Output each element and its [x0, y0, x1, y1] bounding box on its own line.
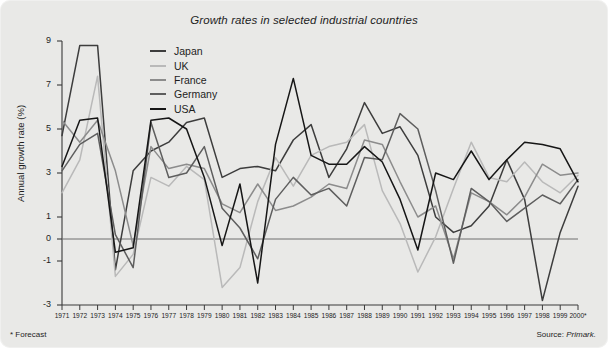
x-tick-label: 1999 [553, 312, 568, 319]
x-tick-label: 1971 [55, 312, 70, 319]
legend-item-uk[interactable]: UK [150, 58, 217, 72]
x-tick-label: 1994 [464, 312, 479, 319]
x-tick-label: 1979 [197, 312, 212, 319]
y-tick-label: 3 [25, 167, 51, 177]
x-tick-label: 1987 [339, 312, 354, 319]
legend-swatch-icon [150, 108, 166, 110]
legend-label: USA [174, 103, 196, 115]
source-prefix: Source: [536, 330, 566, 339]
legend-label: Japan [174, 45, 203, 57]
legend-item-usa[interactable]: USA [150, 102, 217, 116]
x-tick-label: 1988 [357, 312, 372, 319]
legend-label: Germany [174, 88, 217, 100]
x-tick-label: 1980 [215, 312, 230, 319]
x-tick-label: 1981 [233, 312, 248, 319]
x-tick-label: 1984 [286, 312, 301, 319]
x-tick-label: 1972 [72, 312, 87, 319]
x-tick-label: 1986 [322, 312, 337, 319]
legend-swatch-icon [150, 50, 166, 52]
forecast-footnote: * Forecast [10, 330, 46, 339]
legend-swatch-icon [150, 79, 166, 81]
x-tick-label: 2000* [569, 312, 586, 319]
y-tick-label: 9 [25, 35, 51, 45]
y-tick-label: -3 [25, 299, 51, 309]
x-tick-label: 1974 [108, 312, 123, 319]
x-tick-label: 1975 [126, 312, 141, 319]
x-tick-label: 1973 [90, 312, 105, 319]
legend-item-france[interactable]: France [150, 73, 217, 87]
y-tick-label: 0 [25, 233, 51, 243]
x-tick-label: 1989 [375, 312, 390, 319]
legend-item-japan[interactable]: Japan [150, 44, 217, 58]
y-tick-label: 5 [25, 123, 51, 133]
x-tick-label: 1993 [446, 312, 461, 319]
x-tick-label: 1983 [268, 312, 283, 319]
x-tick-label: 1982 [250, 312, 265, 319]
series-line-uk [62, 76, 578, 287]
x-tick-label: 1995 [482, 312, 497, 319]
y-tick-label: 7 [25, 79, 51, 89]
y-tick-label: -1 [25, 255, 51, 265]
x-tick-label: 1990 [393, 312, 408, 319]
legend-label: UK [174, 60, 189, 72]
source-note: Source: Primark. [536, 330, 596, 339]
x-tick-label: 1992 [428, 312, 443, 319]
x-tick-label: 1996 [499, 312, 514, 319]
legend-label: France [174, 74, 207, 86]
x-tick-label: 1998 [535, 312, 550, 319]
x-tick-label: 1977 [161, 312, 176, 319]
plot-area [0, 0, 608, 348]
x-tick-label: 1991 [411, 312, 426, 319]
chart-figure: Growth rates in selected industrial coun… [0, 0, 608, 348]
source-name: Primark. [566, 330, 596, 339]
x-tick-label: 1985 [304, 312, 319, 319]
series-line-france [62, 120, 578, 259]
legend-swatch-icon [150, 65, 166, 67]
x-tick-label: 1978 [179, 312, 194, 319]
legend-swatch-icon [150, 93, 166, 95]
x-tick-label: 1997 [517, 312, 532, 319]
chart-legend: JapanUKFranceGermanyUSA [150, 44, 217, 116]
x-tick-label: 1976 [144, 312, 159, 319]
series-line-japan [62, 45, 578, 300]
y-tick-label: 1 [25, 211, 51, 221]
legend-item-germany[interactable]: Germany [150, 87, 217, 101]
